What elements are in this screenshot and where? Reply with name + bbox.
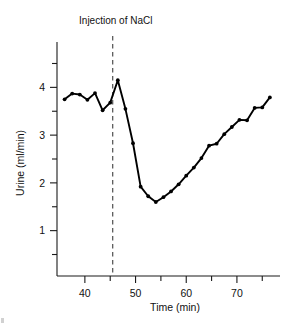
data-point-marker [184, 174, 188, 178]
injection-annotation-label: Injection of NaCl [79, 15, 152, 26]
chart-figure: 1234 40506070 Time (min) Urine (ml/min) … [0, 0, 288, 332]
data-point-marker [162, 195, 166, 199]
x-axis-tick-labels: 40506070 [79, 287, 243, 299]
x-axis-ticks [85, 276, 262, 283]
data-point-marker [86, 98, 90, 102]
data-point-marker [268, 96, 272, 100]
x-axis-tick-label: 40 [79, 287, 91, 299]
data-point-marker [192, 166, 196, 170]
y-axis-tick-label: 4 [39, 81, 45, 93]
data-point-marker [222, 132, 226, 136]
data-point-marker [177, 182, 181, 186]
data-point-marker [245, 118, 249, 122]
x-axis-tick-label: 70 [231, 287, 243, 299]
data-point-marker [146, 194, 150, 198]
data-point-marker [260, 106, 264, 110]
y-axis-tick-label: 2 [39, 177, 45, 189]
data-point-marker [108, 101, 112, 105]
data-point-marker [207, 144, 211, 148]
data-point-marker [253, 106, 257, 110]
data-point-marker [78, 93, 82, 97]
y-axis-tick-label: 3 [39, 129, 45, 141]
urine-data-line [65, 80, 270, 202]
x-axis-title: Time (min) [150, 301, 200, 313]
data-point-marker [200, 156, 204, 160]
x-axis-tick-label: 60 [180, 287, 192, 299]
scan-speck [1, 318, 4, 323]
data-point-marker [131, 141, 135, 145]
y-axis-ticks [50, 63, 57, 254]
data-point-marker [101, 108, 105, 112]
data-point-marker [215, 142, 219, 146]
x-axis-tick-label: 50 [130, 287, 142, 299]
y-axis-title: Urine (ml/min) [14, 130, 26, 196]
data-point-marker [63, 97, 67, 101]
data-point-marker [70, 92, 74, 96]
data-point-marker [124, 107, 128, 111]
data-point-marker [116, 78, 120, 82]
y-axis-tick-label: 1 [39, 224, 45, 236]
data-point-marker [139, 185, 143, 189]
data-point-marker [230, 125, 234, 129]
urine-data-markers [63, 78, 272, 204]
urine-vs-time-line-chart: 1234 40506070 Time (min) Urine (ml/min) … [0, 0, 288, 332]
data-point-marker [154, 200, 158, 204]
data-point-marker [169, 190, 173, 194]
data-point-marker [93, 91, 97, 95]
data-point-marker [238, 118, 242, 122]
y-axis-tick-labels: 1234 [39, 81, 45, 236]
